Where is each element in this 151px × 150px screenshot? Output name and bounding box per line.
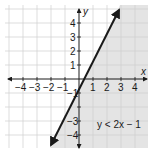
y-tick-label: 3 (70, 32, 76, 43)
y-tick-label: −4 (67, 130, 79, 141)
y-tick-label: 1 (70, 60, 76, 71)
x-tick-label: 1 (90, 82, 96, 93)
y-tick-label: 4 (70, 18, 76, 29)
x-tick-label: −3 (29, 82, 41, 93)
x-tick-label: 4 (132, 82, 138, 93)
y-axis-label: y (82, 6, 89, 17)
y-tick-label: −3 (67, 116, 79, 127)
y-tick-label: 2 (70, 46, 76, 57)
x-tick-label: −2 (43, 82, 55, 93)
inequality-label: y < 2x − 1 (97, 119, 141, 130)
y-tick-label: −1 (67, 88, 79, 99)
x-axis-label: x (140, 66, 147, 77)
x-tick-label: −4 (15, 82, 27, 93)
x-tick-label: 3 (118, 82, 124, 93)
x-tick-label: 2 (104, 82, 110, 93)
inequality-graph: y x −4 −3 −2 −1 1 2 3 4 4 3 2 1 −1 −3 −4… (0, 0, 151, 150)
